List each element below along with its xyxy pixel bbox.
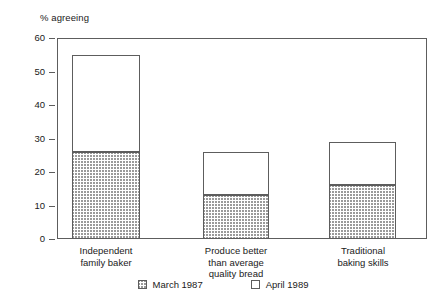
category-label-line: family baker bbox=[46, 257, 166, 269]
category-label-line: Produce better bbox=[176, 245, 296, 257]
category-label-line: Independent bbox=[46, 245, 166, 257]
y-tick-label-0: 0 bbox=[40, 233, 45, 244]
y-tick-label-20: 20 bbox=[34, 166, 45, 177]
category-label-2: Traditional baking skills bbox=[303, 245, 423, 268]
y-tick-mark bbox=[49, 239, 55, 240]
legend-label: March 1987 bbox=[153, 279, 203, 290]
y-tick-label-50: 50 bbox=[34, 66, 45, 77]
y-tick-mark bbox=[49, 105, 55, 106]
bar-group-traditional-baking-skills[interactable] bbox=[329, 142, 396, 239]
y-tick-label-40: 40 bbox=[34, 99, 45, 110]
category-label-line: than average bbox=[176, 257, 296, 269]
bar-segment-april-1989[interactable] bbox=[203, 152, 269, 196]
bar-segment-april-1989[interactable] bbox=[329, 142, 396, 186]
category-label-line: baking skills bbox=[303, 257, 423, 269]
legend-item-april-1989[interactable]: April 1989 bbox=[251, 279, 309, 290]
y-tick-mark bbox=[49, 38, 55, 39]
y-tick-mark bbox=[49, 72, 55, 73]
y-tick-label-10: 10 bbox=[34, 200, 45, 211]
bar-segment-march-1987[interactable] bbox=[72, 152, 140, 239]
y-tick-label-30: 30 bbox=[34, 133, 45, 144]
hatched-square-icon bbox=[138, 280, 147, 289]
category-label-1: Produce better than average quality brea… bbox=[176, 245, 296, 280]
bar-segment-april-1989[interactable] bbox=[72, 55, 140, 152]
y-tick-mark bbox=[49, 206, 55, 207]
legend-item-march-1987[interactable]: March 1987 bbox=[138, 279, 203, 290]
bar-group-produce-better-than-average-quality-bread[interactable] bbox=[203, 152, 269, 239]
category-label-line: quality bread bbox=[176, 268, 296, 280]
y-tick-mark bbox=[49, 139, 55, 140]
empty-square-icon bbox=[251, 280, 260, 289]
bar-segment-march-1987[interactable] bbox=[203, 195, 269, 239]
category-label-line: Traditional bbox=[303, 245, 423, 257]
bar-chart: % agreeing 60 50 40 30 20 10 0 bbox=[0, 0, 446, 305]
y-tick-label-60: 60 bbox=[34, 32, 45, 43]
legend-label: April 1989 bbox=[266, 279, 309, 290]
bar-segment-march-1987[interactable] bbox=[329, 185, 396, 239]
chart-legend: March 1987 April 1989 bbox=[0, 279, 446, 290]
category-label-0: Independent family baker bbox=[46, 245, 166, 268]
bar-group-independent-family-baker[interactable] bbox=[72, 55, 140, 239]
y-tick-mark bbox=[49, 172, 55, 173]
y-axis-title: % agreeing bbox=[40, 12, 89, 23]
